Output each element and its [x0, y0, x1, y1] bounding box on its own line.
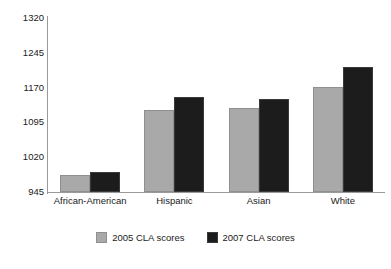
- bar-group: [229, 18, 289, 192]
- x-axis-label: African-American: [54, 196, 127, 206]
- bar-2007: [259, 99, 289, 192]
- legend-entry: 2007 CLA scores: [207, 232, 295, 243]
- legend-entry: 2005 CLA scores: [96, 232, 184, 243]
- bar-group: [313, 18, 373, 192]
- legend-label: 2005 CLA scores: [112, 233, 184, 243]
- x-axis-line: [47, 192, 385, 193]
- bar-2005: [229, 108, 259, 192]
- y-axis-tick-label: 1170: [0, 83, 44, 93]
- y-axis-tick-label: 1095: [0, 118, 44, 128]
- bar-2007: [90, 172, 120, 192]
- bar-chart-figure: 94510201095117012451320 African-American…: [0, 0, 391, 269]
- y-axis-tick-label: 945: [0, 187, 44, 197]
- plot-area: [48, 18, 385, 192]
- bar-2005: [144, 110, 174, 192]
- y-axis-tick-label: 1245: [0, 48, 44, 58]
- bar-2007: [343, 67, 373, 192]
- bar-group: [144, 18, 204, 192]
- bar-group: [60, 18, 120, 192]
- legend-label: 2007 CLA scores: [223, 233, 295, 243]
- bar-2007: [174, 97, 204, 192]
- bar-2005: [313, 87, 343, 192]
- x-axis-label: White: [331, 196, 355, 206]
- bar-2005: [60, 175, 90, 192]
- chart-legend: 2005 CLA scores2007 CLA scores: [0, 232, 391, 243]
- legend-swatch-icon: [207, 232, 218, 243]
- x-axis-label: Asian: [247, 196, 271, 206]
- legend-swatch-icon: [96, 232, 107, 243]
- x-axis-label: Hispanic: [156, 196, 192, 206]
- y-axis-tick-labels: 94510201095117012451320: [0, 0, 44, 269]
- y-axis-tick-label: 1020: [0, 152, 44, 162]
- y-axis-tick-label: 1320: [0, 13, 44, 23]
